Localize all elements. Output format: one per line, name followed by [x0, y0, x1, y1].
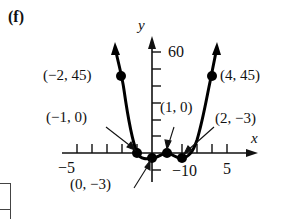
point-label-0-neg3: (0, −3) [70, 177, 111, 192]
adjacent-panel-border [0, 183, 11, 219]
y-tick-label-neg10: −10 [172, 163, 197, 178]
x-tick-label-5: 5 [223, 161, 231, 176]
x-tick-label-neg5: −5 [58, 160, 75, 175]
curve-right-arrow-icon [212, 42, 221, 55]
point-label-1-0: (1, 0) [160, 100, 193, 115]
point-label-4-45: (4, 45) [220, 68, 260, 83]
figure: (f) y x 60 −10 −5 5 (−2, 45) (4, 45) (−1… [0, 0, 288, 219]
point-label-neg2-45: (−2, 45) [43, 68, 91, 83]
y-axis-arrow-icon [148, 36, 156, 49]
point-label-2-neg3: (2, −3) [215, 111, 256, 126]
x-axis-label: x [251, 131, 258, 146]
y-axis-label: y [138, 18, 145, 33]
panel-label: (f) [8, 9, 24, 24]
curve-left-arrow-icon [111, 42, 120, 55]
point-label-neg1-0: (−1, 0) [46, 110, 87, 125]
y-tick-label-60: 60 [168, 44, 184, 59]
x-axis-arrow-icon [246, 149, 258, 157]
adjacent-panel-divider [0, 209, 10, 210]
